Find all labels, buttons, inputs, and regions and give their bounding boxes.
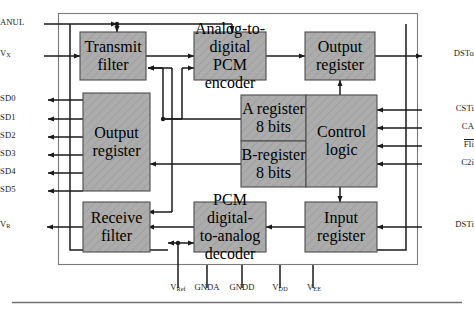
- block-label-transmit-filter: Transmit filter: [80, 32, 146, 80]
- figure-canvas: Transmit filter Analog-to- digital PCM e…: [0, 0, 474, 313]
- block-label-input-register: Input register: [305, 202, 377, 252]
- pin-sd5-text: SD5: [0, 184, 16, 194]
- receive-filter-line2: filter: [101, 227, 132, 244]
- dac-decoder-line1: PCM digital-: [207, 191, 253, 226]
- pin-dsti-text: DSTi: [455, 219, 474, 229]
- pin-fli-text: FIi: [464, 139, 474, 149]
- dac-decoder-line3: decoder: [205, 245, 256, 262]
- pin-vdd-sub: DD: [279, 285, 288, 292]
- pin-dsto-text: DSTo: [454, 48, 474, 58]
- dac-decoder-line2: to-analog: [200, 227, 260, 244]
- input-register-line2: register: [317, 227, 365, 244]
- block-label-receive-filter: Receive filter: [83, 202, 150, 252]
- pin-label-ca: CA: [428, 122, 474, 132]
- block-label-dac-decoder: PCM digital- to-analog decoder: [194, 202, 266, 252]
- output-register-right-line1: Output: [318, 38, 362, 55]
- block-label-b-register: B-register 8 bits: [241, 141, 306, 187]
- pin-label-sd3: SD3: [0, 149, 44, 159]
- pin-ca-text: CA: [462, 121, 474, 131]
- pin-sd1-text: SD1: [0, 112, 16, 122]
- pin-label-c2i: C2i: [428, 158, 474, 168]
- pin-label-sd4: SD4: [0, 167, 44, 177]
- control-logic-line1: Control: [317, 123, 366, 140]
- output-register-left-line1: Output: [94, 124, 138, 141]
- block-label-control-logic: Control logic: [306, 95, 377, 187]
- output-register-right-line2: register: [316, 56, 364, 73]
- pin-label-sd5: SD5: [0, 185, 44, 195]
- b-register-line2: 8 bits: [256, 164, 291, 181]
- pin-sd3-text: SD3: [0, 148, 16, 158]
- pin-label-anul: ANUL: [0, 18, 41, 28]
- block-label-a-register: A register 8 bits: [241, 95, 306, 141]
- pin-label-dsto: DSTo: [428, 49, 474, 59]
- receive-filter-line1: Receive: [91, 209, 143, 226]
- transmit-filter-line2: filter: [97, 56, 128, 73]
- pin-vr-sub: R: [6, 222, 10, 229]
- block-label-output-register-right: Output register: [305, 32, 375, 80]
- output-register-left-line2: register: [93, 142, 141, 159]
- b-register-line1: B-register: [242, 146, 306, 163]
- block-label-adc-encoder: Analog-to- digital PCM encoder: [194, 32, 266, 80]
- transmit-filter-line1: Transmit: [84, 38, 141, 55]
- pin-vx-sub: X: [6, 51, 11, 58]
- control-logic-line2: logic: [325, 141, 357, 158]
- input-register-line1: Input: [324, 209, 358, 226]
- pin-label-vr: VR: [0, 220, 40, 230]
- pin-gnda-text: GNDA: [194, 282, 219, 292]
- junction-anul: [115, 22, 119, 26]
- pin-label-dsti: DSTi: [428, 220, 474, 230]
- pin-c2i-text: C2i: [461, 157, 474, 167]
- pin-label-fli: FIi: [428, 139, 474, 150]
- a-register-line2: 8 bits: [256, 118, 291, 135]
- pin-label-vee: VEE: [291, 283, 337, 293]
- pin-sd4-text: SD4: [0, 166, 16, 176]
- pin-label-sd1: SD1: [0, 113, 44, 123]
- pin-label-sd2: SD2: [0, 131, 44, 141]
- a-register-line1: A register: [242, 100, 305, 117]
- pin-anul-text: ANUL: [0, 17, 24, 27]
- pin-gndd-text: GNDD: [229, 282, 254, 292]
- adc-encoder-line1: Analog-to-: [195, 20, 265, 37]
- pin-sd0-text: SD0: [0, 93, 16, 103]
- pin-sd2-text: SD2: [0, 130, 16, 140]
- adc-encoder-line3: encoder: [205, 74, 256, 91]
- pin-label-vx: VX: [0, 49, 41, 59]
- junction-vref: [176, 241, 180, 245]
- pin-label-sd0: SD0: [0, 94, 44, 104]
- junction-bus-a: [161, 117, 165, 121]
- pin-vee-sub: EE: [313, 285, 321, 292]
- block-label-output-register-left: Output register: [83, 93, 150, 191]
- pin-csti-text: CSTi: [456, 103, 474, 113]
- pin-label-csti: CSTi: [428, 104, 474, 114]
- adc-encoder-line2: digital PCM: [210, 38, 251, 73]
